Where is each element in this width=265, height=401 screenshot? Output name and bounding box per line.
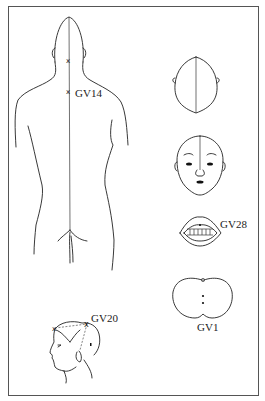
gv20-marker: x <box>84 320 89 329</box>
mouth-figure: GV28 <box>180 217 247 246</box>
back-view-figure: x x GV14 <box>15 17 128 270</box>
gv28-label: GV28 <box>220 218 247 230</box>
perineum-figure: GV1 <box>173 278 233 333</box>
front-face-figure <box>175 136 226 195</box>
side-head-figure: x x GV20 <box>50 312 118 383</box>
gv28-marker <box>199 224 201 226</box>
gv20-label: GV20 <box>91 312 118 324</box>
gv1-marker <box>202 302 204 304</box>
top-of-head-figure <box>173 57 220 113</box>
governing-vessel-diagram: x x GV14 GV28 <box>0 0 265 401</box>
gv14-marker: x <box>66 88 70 96</box>
gv-channel-line <box>69 17 70 230</box>
gv14-label: GV14 <box>75 87 102 99</box>
svg-text:x: x <box>52 325 56 333</box>
gv1-label: GV1 <box>197 321 218 333</box>
eye-left <box>186 162 192 165</box>
point-marker: x <box>66 57 70 65</box>
eye-right <box>207 162 213 165</box>
